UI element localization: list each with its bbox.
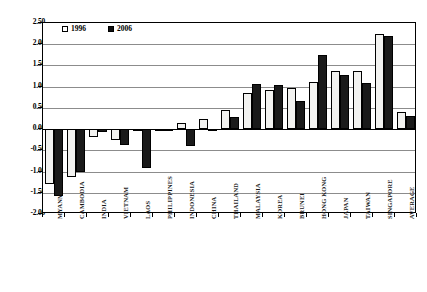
bar-group xyxy=(197,23,219,212)
x-axis-label-china: CHINA xyxy=(210,197,217,219)
x-axis-label-vietnam: VIETNAM xyxy=(122,187,129,219)
bar-1996 xyxy=(89,129,98,137)
x-axis-label-laos: LAOS xyxy=(144,201,151,219)
bar-1996 xyxy=(353,71,362,130)
bar-1996 xyxy=(331,71,340,129)
bar-1996 xyxy=(67,129,76,177)
bar-1996 xyxy=(177,123,186,129)
bar-1996 xyxy=(221,110,230,129)
x-axis-label-cambodia: CAMBODIA xyxy=(78,181,85,219)
x-axis-tick-mark xyxy=(42,213,43,217)
bar-group xyxy=(263,23,285,212)
bar-group xyxy=(329,23,351,212)
bar-1996 xyxy=(397,112,406,129)
bar-1996 xyxy=(243,93,252,129)
bar-2006 xyxy=(120,129,129,145)
bar-2006 xyxy=(384,36,393,129)
bar-group xyxy=(395,23,417,212)
x-axis-tick-mark xyxy=(108,213,109,217)
bar-2006 xyxy=(76,129,85,172)
x-axis-label-hong-kong: HONG KONG xyxy=(320,177,327,219)
bar-2006 xyxy=(230,117,239,129)
x-axis-label-thailand: THAILAND xyxy=(232,183,239,219)
x-axis-tick-mark xyxy=(152,213,153,217)
x-axis-tick-mark xyxy=(284,213,285,217)
x-axis-label-indonesia: INDONESIA xyxy=(188,181,195,219)
bar-group xyxy=(109,23,131,212)
x-axis-tick-mark xyxy=(350,213,351,217)
bar-2006 xyxy=(296,101,305,129)
bar-2006 xyxy=(164,129,173,131)
bar-1996 xyxy=(45,129,54,184)
legend-label-2006: 2006 xyxy=(117,24,132,33)
bar-1996 xyxy=(287,88,296,130)
bar-2006 xyxy=(406,116,415,129)
x-axis-tick-mark xyxy=(394,213,395,217)
legend-swatch-2006-icon xyxy=(108,26,114,32)
x-axis-label-brunei: BRUNEI xyxy=(298,193,305,219)
bar-2006 xyxy=(362,83,371,129)
legend-label-1996: 1996 xyxy=(71,24,86,33)
x-axis-tick-mark xyxy=(86,213,87,217)
x-axis-tick-mark xyxy=(218,213,219,217)
bar-2006 xyxy=(274,85,283,129)
x-axis-label-malaysia: MALAYSIA xyxy=(254,183,261,219)
bar-2006 xyxy=(186,129,195,146)
x-axis-label-india: INDIA xyxy=(100,199,107,219)
bar-2006 xyxy=(252,84,261,129)
x-axis-label-philippines: PHILIPPINES xyxy=(166,176,173,219)
bar-2006 xyxy=(318,55,327,129)
legend-item-2006: 2006 xyxy=(108,24,132,33)
plot-area xyxy=(42,22,416,213)
x-axis-label-average: AVERAGE xyxy=(408,186,415,219)
bar-group xyxy=(131,23,153,212)
legend-swatch-1996-icon xyxy=(62,26,68,32)
x-axis-tick-mark xyxy=(306,213,307,217)
bar-1996 xyxy=(265,90,274,129)
x-axis-tick-mark xyxy=(174,213,175,217)
bar-1996 xyxy=(111,129,120,140)
bar-group xyxy=(87,23,109,212)
x-axis-tick-mark xyxy=(64,213,65,217)
x-axis-tick-mark xyxy=(372,213,373,217)
bar-1996 xyxy=(309,82,318,130)
bar-2006 xyxy=(208,129,217,131)
legend-item-1996: 1996 xyxy=(62,24,86,33)
bar-2006 xyxy=(340,75,349,129)
bar-group xyxy=(351,23,373,212)
x-axis-tick-mark xyxy=(262,213,263,217)
x-axis-label-myanmar: MYANMAR xyxy=(56,183,63,219)
x-axis-tick-mark xyxy=(130,213,131,217)
bar-chart: 2.502.001.501.000.500.00-0.50-1.00-1.50-… xyxy=(0,0,427,292)
chart-legend: 1996 2006 xyxy=(62,24,132,33)
x-axis-label-singapore: SINGAPORE xyxy=(386,179,393,219)
bar-1996 xyxy=(375,34,384,130)
bar-1996 xyxy=(199,119,208,129)
bar-2006 xyxy=(142,129,151,168)
bar-1996 xyxy=(133,129,142,131)
x-axis-tick-mark xyxy=(196,213,197,217)
x-axis-tick-mark xyxy=(240,213,241,217)
x-axis-tick-mark xyxy=(416,213,417,217)
bar-2006 xyxy=(98,129,107,132)
bar-group xyxy=(285,23,307,212)
x-axis-tick-mark xyxy=(328,213,329,217)
x-axis-label-taiwan: TAIWAN xyxy=(364,192,371,219)
bars-layer xyxy=(43,23,415,212)
bar-1996 xyxy=(155,129,164,131)
x-axis-label-korea: KOREA xyxy=(276,195,283,219)
x-axis-label-japan: JAPAN xyxy=(342,198,349,219)
